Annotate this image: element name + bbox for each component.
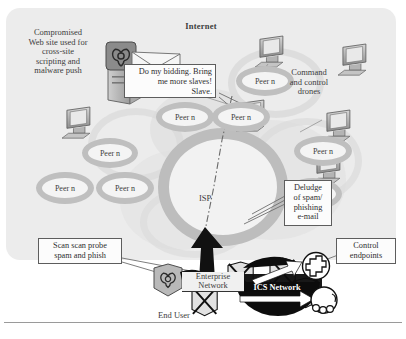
control-endpoints-callout: Control endpoints [336,238,396,264]
peer-label: Peer n [115,184,135,193]
bottom-divider [4,322,402,323]
compromised-website-label: Compromised Web site used for cross-site… [12,28,104,76]
peer-node[interactable]: Peer n [156,102,214,132]
isp-label: ISP [199,193,211,203]
isp-cloud [158,128,288,246]
control-endpoint-icon [311,287,337,313]
peer-node[interactable]: Peer n [212,102,270,132]
ics-network-label: ICS Network [240,283,314,292]
diagram-canvas: ISP [0,0,406,339]
enterprise-network-label: Enterprise Network [182,272,244,292]
peer-label: Peer n [313,147,333,156]
biohazard-endpoint-icon [154,264,182,296]
peer-node[interactable]: Peer n [96,172,154,204]
end-user-label: End User [146,311,202,321]
internet-title: Internet [170,22,232,32]
peer-label: Peer n [100,149,120,158]
peer-label: Peer n [55,184,75,193]
speech-bubble-callout: Do my bidding. Bring me more slaves! Sla… [124,64,216,98]
command-control-label: Command and control drones [272,68,346,97]
peer-node[interactable]: Peer n [82,138,138,168]
peer-node[interactable]: Peer n [36,172,94,204]
scan-probe-callout: Scan scan probe spam and phish [38,238,122,264]
spam-deluge-callout: Deludge of spam/ phishing e-mail [284,180,332,226]
peer-label: Peer n [175,113,195,122]
peer-node[interactable]: Peer n [294,136,352,166]
peer-label: Peer n [231,113,251,122]
